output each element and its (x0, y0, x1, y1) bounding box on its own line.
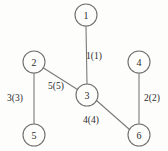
graph-figure: 1(1) 5(5) 3(3) 4(4) 2(2) 1 2 3 4 (0, 0, 168, 151)
edge-label-1-3: 1(1) (86, 51, 102, 62)
node-2: 2 (23, 51, 45, 73)
edge-label-3-6: 4(4) (83, 115, 99, 126)
node-1: 1 (75, 4, 97, 26)
graph-canvas: 1(1) 5(5) 3(3) 4(4) 2(2) 1 2 3 4 (0, 0, 168, 151)
edge-label-2-3: 5(5) (48, 81, 64, 92)
node-6: 6 (128, 124, 150, 146)
node-4: 4 (128, 51, 150, 73)
node-1-label: 1 (84, 10, 89, 21)
node-3-label: 3 (85, 90, 90, 101)
edge-3-6 (97, 101, 130, 130)
edge-label-4-6: 2(2) (144, 93, 160, 104)
node-5: 5 (23, 124, 45, 146)
node-4-label: 4 (137, 57, 142, 68)
node-5-label: 5 (32, 130, 37, 141)
edge-layer (34, 26, 139, 130)
edge-label-2-5: 3(3) (7, 93, 23, 104)
node-2-label: 2 (32, 57, 37, 68)
node-6-label: 6 (137, 130, 142, 141)
node-3: 3 (76, 84, 98, 106)
